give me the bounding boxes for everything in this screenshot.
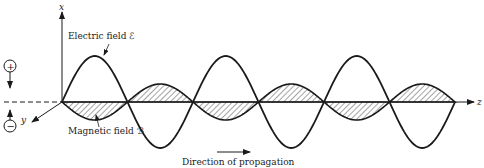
positive-charge: + — [4, 60, 16, 88]
magnetic-field-lobe — [128, 84, 194, 102]
minus-symbol: − — [7, 121, 15, 132]
negative-charge: − — [4, 110, 16, 132]
magnetic-field-label: Magnetic field ℬ — [68, 126, 144, 136]
electric-field-label: Electric field ℰ — [68, 31, 135, 41]
magnetic-field-lobe — [390, 84, 456, 102]
x-axis-label: x — [59, 2, 64, 12]
propagation-label: Direction of propagation — [182, 157, 295, 167]
electric-field-pointer — [104, 44, 109, 55]
em-wave-diagram: x y z Electric field ℰ Magnetic field ℬ … — [0, 0, 484, 168]
magnetic-field-lobe — [324, 102, 390, 120]
magnetic-field-lobe — [259, 84, 325, 102]
magnetic-field-lobe — [193, 102, 259, 120]
y-axis-label: y — [20, 115, 27, 125]
magnetic-field-lobe — [62, 102, 128, 120]
y-axis — [32, 102, 62, 122]
plus-symbol: + — [7, 61, 15, 72]
z-axis-label: z — [476, 97, 482, 107]
